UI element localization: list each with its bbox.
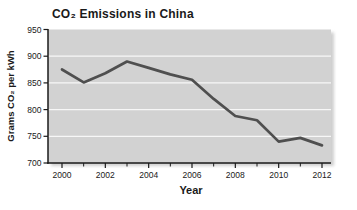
x-tick-label-2004: 2004	[139, 170, 158, 180]
y-tick-label-850: 850	[27, 78, 41, 88]
x-tick-label-2008: 2008	[226, 170, 245, 180]
x-tick-label-2000: 2000	[53, 170, 72, 180]
co2-emissions-chart: 7007508008509009502000200220042006200820…	[0, 0, 357, 210]
x-tick-label-2006: 2006	[183, 170, 202, 180]
y-tick-label-950: 950	[27, 25, 41, 35]
line-chart-canvas: 7007508008509009502000200220042006200820…	[0, 0, 357, 210]
y-tick-label-800: 800	[27, 105, 41, 115]
y-tick-label-750: 750	[27, 131, 41, 141]
x-tick-label-2002: 2002	[96, 170, 115, 180]
plot-area	[48, 30, 331, 164]
y-axis-title: Grams CO₂ per kWh	[5, 50, 16, 142]
x-axis-title: Year	[179, 184, 203, 196]
plot-layers: 7007508008509009502000200220042006200820…	[27, 25, 334, 180]
y-tick-label-700: 700	[27, 158, 41, 168]
x-tick-label-2010: 2010	[269, 170, 288, 180]
y-tick-label-900: 900	[27, 51, 41, 61]
x-tick-label-2012: 2012	[313, 170, 332, 180]
chart-title: CO₂ Emissions in China	[52, 7, 194, 21]
